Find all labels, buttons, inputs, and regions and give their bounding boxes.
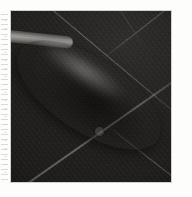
- page-canvas: Pale grey ellipsoidal object with a slen…: [0, 0, 192, 197]
- photograph[interactable]: Pale grey ellipsoidal object with a slen…: [11, 11, 171, 182]
- vent-hole-mark: [95, 127, 104, 136]
- dashed-scan-margin: [1, 14, 8, 184]
